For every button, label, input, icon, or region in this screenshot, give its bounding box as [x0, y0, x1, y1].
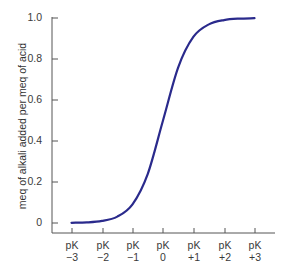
x-tick-label-pk-plus-3: pK +3 — [240, 239, 270, 263]
x-tick-bottom: −1 — [118, 251, 148, 263]
y-tick-label: 1.0 — [16, 11, 42, 23]
x-tick-label-pk-minus-1: pK −1 — [118, 239, 148, 263]
x-tick-label-pk-plus-2: pK +2 — [210, 239, 240, 263]
chart-canvas — [0, 0, 286, 272]
x-tick-top: pK — [88, 239, 118, 251]
x-tick-label-pk-minus-2: pK −2 — [88, 239, 118, 263]
x-tick-top: pK — [118, 239, 148, 251]
x-tick-top: pK — [210, 239, 240, 251]
x-tick-top: pK — [148, 239, 178, 251]
x-tick-top: pK — [57, 239, 87, 251]
x-tick-bottom: 0 — [148, 251, 178, 263]
x-tick-bottom: +2 — [210, 251, 240, 263]
x-tick-top: pK — [240, 239, 270, 251]
y-ticks — [52, 18, 58, 223]
y-tick-label: 0 — [16, 216, 42, 228]
x-tick-label-pk-minus-3: pK −3 — [57, 239, 87, 263]
y-tick-label: 0.6 — [16, 93, 42, 105]
x-tick-label-pk-plus-1: pK +1 — [179, 239, 209, 263]
x-tick-bottom: +3 — [240, 251, 270, 263]
x-tick-bottom: −2 — [88, 251, 118, 263]
titration-curve-line — [72, 18, 255, 223]
x-tick-bottom: −3 — [57, 251, 87, 263]
y-tick-label: 0.2 — [16, 175, 42, 187]
y-tick-label: 0.8 — [16, 52, 42, 64]
x-tick-label-pk-0: pK 0 — [148, 239, 178, 263]
x-ticks — [72, 228, 255, 233]
x-tick-top: pK — [179, 239, 209, 251]
x-tick-bottom: +1 — [179, 251, 209, 263]
y-tick-label: 0.4 — [16, 134, 42, 146]
y-axis-label: meq of alkali added per meq of acid — [16, 16, 28, 236]
